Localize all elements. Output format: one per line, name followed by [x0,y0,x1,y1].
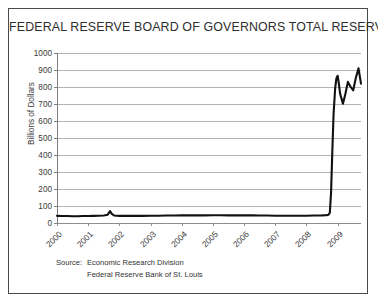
x-tick-mark-2005 [213,223,214,226]
y-tick-label-900: 900 [38,66,52,75]
y-tick-label-300: 300 [38,168,52,177]
x-tick-mark-2004 [182,223,183,226]
source-line-1: Source:Economic Research Division [56,257,203,269]
x-tick-mark-2001 [88,223,89,226]
plot-area: 01002003004005006007008009001000 2000200… [57,53,361,223]
page-title: FEDERAL RESERVE BOARD OF GOVERNORS TOTAL… [9,20,367,34]
x-tick-mark-2002 [119,223,120,226]
x-tick-mark-2007 [275,223,276,226]
x-tick-mark-2009 [338,223,339,226]
y-tick-label-500: 500 [38,134,52,143]
y-tick-label-1000: 1000 [34,49,52,58]
y-tick-label-800: 800 [38,83,52,92]
y-tick-label-600: 600 [38,117,52,126]
x-tick-mark-2000 [57,223,58,226]
series-line-group [57,53,361,223]
x-tick-mark-2008 [306,223,307,226]
plot-inner: 01002003004005006007008009001000 2000200… [57,53,361,223]
y-tick-label-700: 700 [38,100,52,109]
y-tick-label-100: 100 [38,202,52,211]
y-tick-label-0: 0 [47,219,52,228]
source-division: Economic Research Division [87,258,184,267]
series-line-total-reserves [57,68,361,216]
x-tick-mark-2006 [244,223,245,226]
source-label: Source: [56,257,87,269]
source-line-2: Federal Reserve Bank of St. Louis [56,269,203,281]
gridline-0 [57,223,361,224]
source-institution: Federal Reserve Bank of St. Louis [87,270,203,279]
y-tick-label-200: 200 [38,185,52,194]
source-note: Source:Economic Research Division Federa… [56,257,203,280]
x-tick-mark-2003 [151,223,152,226]
chart-figure: FEDERAL RESERVE BOARD OF GOVERNORS TOTAL… [8,8,368,294]
y-axis-title: Billions of Dollars [27,54,36,174]
y-tick-label-400: 400 [38,151,52,160]
